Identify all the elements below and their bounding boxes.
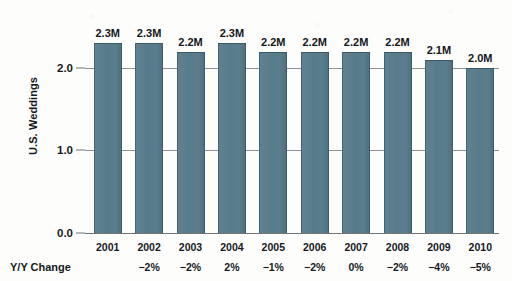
- yy-change-2005: −1%: [263, 261, 284, 273]
- bar-2009: [425, 60, 453, 233]
- bar-value-label-2009: 2.1M: [427, 44, 451, 56]
- x-tick-label-2006: 2006: [303, 241, 326, 253]
- bar-value-label-2005: 2.2M: [261, 36, 285, 48]
- x-tick-label-2003: 2003: [179, 241, 202, 253]
- bar-value-label-2010: 2.0M: [468, 52, 492, 64]
- bar-value-label-2006: 2.2M: [302, 36, 326, 48]
- yy-change-2008: −2%: [387, 261, 408, 273]
- x-tick-label-2008: 2008: [386, 241, 409, 253]
- x-tick-label-2002: 2002: [137, 241, 160, 253]
- bar-2003: [177, 52, 205, 234]
- weddings-bar-chart: U.S. Weddings 2.0 1.0 0.0 2.3M2.3M2.2M2.…: [0, 0, 512, 281]
- yy-change-2009: −4%: [428, 261, 449, 273]
- bar-value-label-2007: 2.2M: [344, 36, 368, 48]
- bar-value-label-2002: 2.3M: [137, 27, 161, 39]
- bar-value-label-2003: 2.2M: [178, 36, 202, 48]
- yy-change-row-label: Y/Y Change: [10, 261, 71, 273]
- y-tick-mark-0: [76, 233, 85, 234]
- bar-2010: [466, 68, 494, 233]
- y-tick-mark-1: [76, 150, 85, 151]
- yy-change-2006: −2%: [304, 261, 325, 273]
- y-tick-label-0: 0.0: [33, 227, 73, 239]
- plot-area: 2.3M2.3M2.2M2.3M2.2M2.2M2.2M2.2M2.1M2.0M: [85, 0, 503, 281]
- x-tick-label-2010: 2010: [469, 241, 492, 253]
- y-tick-mark-2: [76, 68, 85, 69]
- x-tick-label-2005: 2005: [262, 241, 285, 253]
- bar-value-label-2004: 2.3M: [220, 27, 244, 39]
- yy-change-2003: −2%: [180, 261, 201, 273]
- x-tick-label-2004: 2004: [220, 241, 243, 253]
- x-tick-label-2001: 2001: [96, 241, 119, 253]
- y-axis-ticks: 2.0 1.0 0.0: [33, 0, 73, 281]
- yy-change-2004: 2%: [224, 261, 239, 273]
- y-tick-label-1: 1.0: [33, 144, 73, 156]
- bar-value-label-2008: 2.2M: [385, 36, 409, 48]
- x-tick-label-2009: 2009: [427, 241, 450, 253]
- bar-2006: [301, 52, 329, 234]
- bar-2008: [384, 52, 412, 234]
- bar-value-label-2001: 2.3M: [95, 27, 119, 39]
- bar-2001: [94, 43, 122, 233]
- bar-2005: [259, 52, 287, 234]
- bar-2007: [342, 52, 370, 234]
- axis-baseline: [85, 233, 499, 234]
- yy-change-2007: 0%: [349, 261, 364, 273]
- yy-change-2002: −2%: [138, 261, 159, 273]
- yy-change-2010: −5%: [470, 261, 491, 273]
- bar-2004: [218, 43, 246, 233]
- bar-2002: [135, 43, 163, 233]
- y-tick-label-2: 2.0: [33, 62, 73, 74]
- x-tick-label-2007: 2007: [344, 241, 367, 253]
